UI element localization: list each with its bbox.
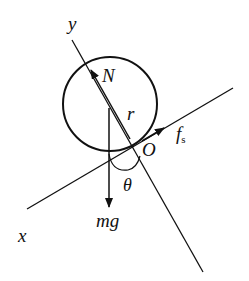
normal-force-label: N — [102, 66, 115, 85]
friction-label: fs — [176, 124, 186, 145]
gravity-label: mg — [96, 211, 119, 230]
friction-label-sub: s — [181, 133, 185, 145]
radius-label: r — [127, 104, 134, 123]
free-body-diagram — [0, 0, 249, 281]
angle-label: θ — [123, 176, 132, 194]
contact-point-label: O — [142, 140, 156, 159]
angle-arc — [109, 154, 140, 170]
y-axis-label: y — [68, 14, 76, 33]
x-axis-label: x — [18, 226, 26, 245]
y-axis-line — [72, 40, 203, 272]
